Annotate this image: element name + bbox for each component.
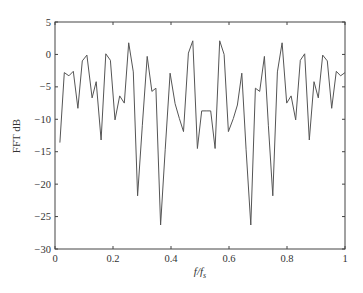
y-tick-label: −20 [35,179,51,190]
x-tick-label: 0.6 [222,253,235,264]
y-axis-label: FFT dB [10,119,22,153]
x-axis-label-subscript: s [203,271,206,280]
x-axis-label: f/fs [194,265,206,280]
fft-chart: 50−5−10−15−20−25−30 00.20.40.60.81 FFT d… [0,0,363,293]
plot-frame [55,22,345,249]
y-tick-label: 0 [46,49,51,60]
series-line-0 [60,41,345,225]
x-tick-label: 0.8 [280,253,293,264]
x-tick-label: 1 [342,253,347,264]
plot-area [55,22,345,249]
x-tick-label: 0.4 [164,253,178,264]
y-tick-label: −25 [35,211,51,222]
y-tick-label: −10 [35,114,51,125]
y-tick-label: −5 [40,81,51,92]
x-tick-label: 0.2 [106,253,119,264]
y-tick-label: −30 [35,244,51,255]
x-tick-label: 0 [52,253,57,264]
x-axis: 00.20.40.60.81 [52,22,347,264]
y-tick-label: −15 [35,146,51,157]
y-tick-label: 5 [46,17,51,28]
y-axis: 50−5−10−15−20−25−30 [35,17,345,255]
